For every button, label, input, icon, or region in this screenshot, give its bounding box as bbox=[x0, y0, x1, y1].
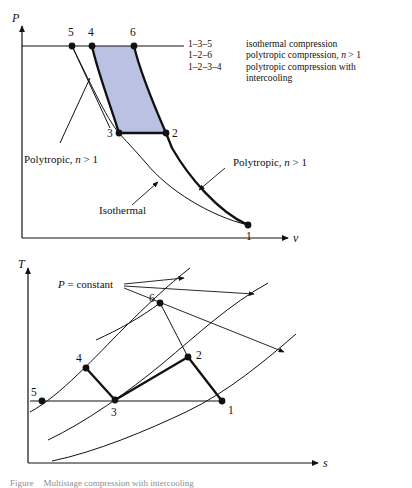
ts-state-point-4 bbox=[83, 365, 90, 372]
pv-state-label-3: 3 bbox=[107, 127, 113, 139]
ts-xlabel: s bbox=[323, 456, 328, 470]
pv-state-point-2 bbox=[163, 130, 170, 137]
pv-xlabel: v bbox=[293, 231, 299, 245]
pv-annotation-polytropic-left: Polytropic, n > 1 bbox=[24, 153, 98, 165]
ts-trace-6-lower-left bbox=[96, 303, 160, 340]
figure-caption: FigureMultistage compression with interc… bbox=[10, 478, 405, 488]
ts-process-2-3 bbox=[115, 357, 188, 400]
ts-pressure-leader-2 bbox=[124, 286, 254, 294]
pv-state-point-4 bbox=[89, 43, 96, 50]
ts-state-label-5: 5 bbox=[31, 386, 37, 398]
ts-state-label-3: 3 bbox=[111, 406, 117, 418]
pv-isothermal-leader bbox=[132, 182, 158, 205]
ts-process-1-2 bbox=[188, 357, 222, 401]
ts-pressure-constant-label: P = constant bbox=[57, 278, 113, 290]
pv-annotation-polytropic-right-tail: > 1 bbox=[290, 156, 307, 168]
pv-annotation-polytropic-right: Polytropic, n > 1 bbox=[233, 156, 307, 168]
legend: 1–3–5 isothermal compression 1–2–6 polyt… bbox=[188, 38, 410, 83]
ts-state-label-2: 2 bbox=[196, 349, 202, 361]
legend-key-1-3-5: 1–3–5 bbox=[188, 38, 246, 49]
legend-key-1-2-3-4: 1–2–3–4 bbox=[188, 61, 246, 72]
ts-state-label-6: 6 bbox=[149, 292, 155, 304]
pv-state-label-1: 1 bbox=[246, 230, 252, 242]
legend-desc-intercooling: polytropic compression with bbox=[246, 61, 410, 72]
pv-state-label-2: 2 bbox=[172, 127, 178, 139]
figure-caption-number: Figure bbox=[10, 478, 34, 488]
legend-desc-polytropic-text: polytropic compression, bbox=[246, 49, 341, 60]
ts-pressure-leader-1 bbox=[124, 278, 184, 284]
ts-pressure-leader-3 bbox=[124, 288, 284, 352]
ts-state-point-5 bbox=[39, 398, 46, 405]
pv-ylabel: P bbox=[11, 11, 20, 25]
pv-state-label-6: 6 bbox=[130, 26, 136, 38]
ts-state-point-6 bbox=[157, 300, 164, 307]
pv-annotation-polytropic-right-text: Polytropic, bbox=[233, 156, 284, 168]
legend-desc-intercooling-text: polytropic compression with bbox=[246, 61, 356, 72]
ts-ylabel: T bbox=[18, 257, 26, 271]
legend-desc-isothermal-text: isothermal compression bbox=[246, 38, 337, 49]
legend-desc-polytropic-tail: > 1 bbox=[346, 49, 361, 60]
pv-state-label-5: 5 bbox=[68, 26, 74, 38]
ts-const-pressure-curve-low bbox=[52, 334, 296, 461]
ts-state-point-1 bbox=[219, 398, 226, 405]
pv-state-point-1 bbox=[245, 222, 252, 229]
pv-annotation-polytropic-left-text: Polytropic, bbox=[24, 153, 75, 165]
legend-row-polytropic: 1–2–6 polytropic compression, n > 1 bbox=[188, 49, 410, 60]
ts-state-label-1: 1 bbox=[228, 404, 234, 416]
pv-state-point-5 bbox=[69, 43, 76, 50]
ts-state-point-3 bbox=[112, 397, 119, 404]
legend-desc-polytropic: polytropic compression, n > 1 bbox=[246, 49, 410, 60]
ts-process-2-6 bbox=[160, 303, 188, 357]
ts-state-label-4: 4 bbox=[76, 352, 82, 364]
legend-desc-isothermal: isothermal compression bbox=[246, 38, 410, 49]
legend-row-isothermal: 1–3–5 isothermal compression bbox=[188, 38, 410, 49]
ts-state-point-2 bbox=[185, 354, 192, 361]
pv-polytropic-right-leader bbox=[199, 168, 225, 190]
legend-continuation: intercooling bbox=[246, 72, 410, 83]
pv-polytropic-leader-line bbox=[60, 78, 90, 143]
pv-state-point-6 bbox=[131, 43, 138, 50]
ts-process-3-4 bbox=[86, 368, 115, 400]
pv-annotation-isothermal: Isothermal bbox=[99, 204, 146, 216]
legend-row-intercooling: 1–2–3–4 polytropic compression with bbox=[188, 61, 410, 72]
legend-key-1-2-6: 1–2–6 bbox=[188, 49, 246, 60]
ts-diagram: 1 2 3 4 5 6 T s P = constant bbox=[18, 257, 328, 470]
shaded-work-region bbox=[92, 46, 166, 133]
pv-state-label-4: 4 bbox=[88, 26, 94, 38]
pv-annotation-polytropic-left-tail: > 1 bbox=[81, 153, 98, 165]
figure-caption-text: Multistage compression with intercooling bbox=[44, 478, 194, 488]
pv-state-point-3 bbox=[116, 130, 123, 137]
ts-pressure-constant-label-rest: = constant bbox=[65, 278, 113, 290]
